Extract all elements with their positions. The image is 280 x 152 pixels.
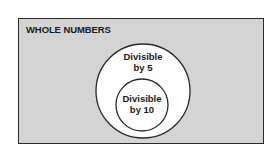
venn-diagram — [0, 0, 280, 152]
set-label-line: by 10 — [112, 104, 172, 115]
set-divisible-by-5-label: Divisible by 5 — [113, 51, 173, 73]
set-label-line: Divisible — [112, 93, 172, 104]
set-label-line: Divisible — [113, 51, 173, 62]
set-label-line: by 5 — [113, 62, 173, 73]
set-divisible-by-10-label: Divisible by 10 — [112, 93, 172, 115]
